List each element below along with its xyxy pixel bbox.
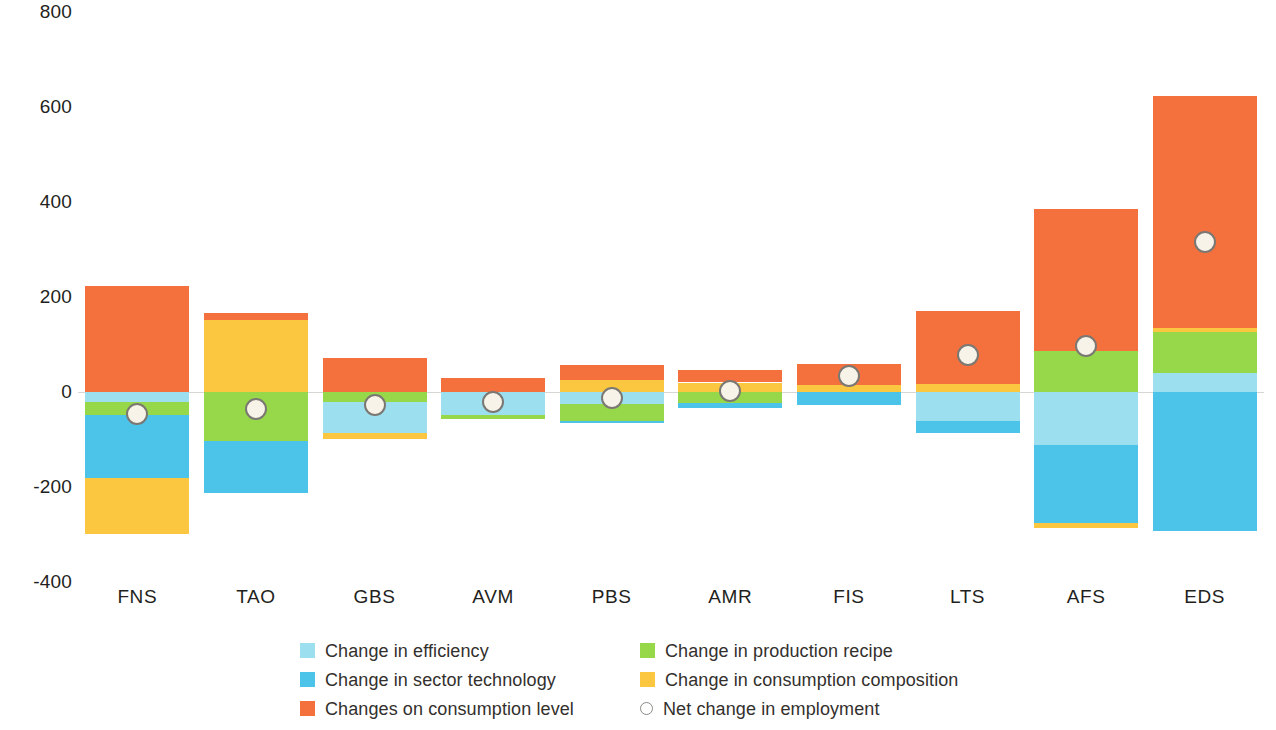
legend-label: Change in production recipe: [665, 641, 893, 661]
net-change-marker: [364, 394, 386, 416]
x-axis-tick-label: GBS: [354, 586, 396, 608]
bar-segment: [85, 286, 189, 392]
legend-color-swatch-icon: [300, 701, 315, 716]
x-axis-tick-label: PBS: [592, 586, 632, 608]
y-axis-tick-label: -200: [10, 477, 72, 496]
legend-item[interactable]: Change in consumption composition: [640, 665, 958, 694]
x-axis-tick-label: FNS: [117, 586, 157, 608]
bar-segment: [441, 378, 545, 392]
bar-segment: [204, 320, 308, 392]
legend-color-swatch-icon: [640, 672, 655, 687]
bar-group[interactable]: [560, 12, 664, 582]
net-change-marker: [1075, 335, 1097, 357]
bar-segment: [204, 313, 308, 320]
x-axis-tick-label: LTS: [950, 586, 985, 608]
bar-segment: [1034, 523, 1138, 528]
bar-group[interactable]: [85, 12, 189, 582]
y-axis-tick-label: 0: [10, 382, 72, 401]
legend-item[interactable]: Change in sector technology: [300, 665, 556, 694]
net-change-marker: [719, 380, 741, 402]
legend-color-swatch-icon: [300, 672, 315, 687]
legend-label: Change in consumption composition: [665, 670, 958, 690]
y-axis-tick-label: 600: [10, 97, 72, 116]
x-axis: FNSTAOGBSAVMPBSAMRFISLTSAFSEDS: [78, 586, 1264, 616]
bar-group[interactable]: [678, 12, 782, 582]
bar-group[interactable]: [441, 12, 545, 582]
y-axis-tick-label: 400: [10, 192, 72, 211]
legend-color-swatch-icon: [300, 643, 315, 658]
net-change-marker: [838, 365, 860, 387]
chart-legend: Change in efficiencyChange in production…: [300, 636, 1000, 728]
bar-group[interactable]: [1034, 12, 1138, 582]
bar-segment: [1034, 209, 1138, 351]
bar-group[interactable]: [797, 12, 901, 582]
chart-container: 8006004002000-200-400 FNSTAOGBSAVMPBSAMR…: [0, 0, 1276, 730]
bar-segment: [797, 392, 901, 405]
bar-segment: [678, 403, 782, 407]
y-axis-tick-label: 200: [10, 287, 72, 306]
legend-color-swatch-icon: [640, 643, 655, 658]
bar-segment: [560, 421, 664, 423]
net-change-marker: [482, 391, 504, 413]
bar-segment: [916, 421, 1020, 433]
legend-circle-marker-icon: [640, 702, 653, 715]
legend-item[interactable]: Change in efficiency: [300, 636, 489, 665]
y-axis: 8006004002000-200-400: [0, 12, 72, 582]
bar-segment: [1153, 332, 1257, 372]
bar-segment: [560, 365, 664, 379]
legend-label: Net change in employment: [663, 699, 880, 719]
bar-segment: [323, 433, 427, 439]
x-axis-tick-label: TAO: [236, 586, 275, 608]
bar-segment: [441, 415, 545, 419]
net-change-marker: [245, 398, 267, 420]
bar-segment: [1034, 392, 1138, 445]
bar-group[interactable]: [1153, 12, 1257, 582]
bar-segment: [916, 392, 1020, 421]
y-axis-tick-label: -400: [10, 572, 72, 591]
bar-segment: [85, 392, 189, 402]
x-axis-tick-label: AFS: [1067, 586, 1106, 608]
bars-layer: [78, 12, 1264, 582]
legend-row: Change in sector technologyChange in con…: [300, 665, 1000, 694]
legend-row: Change in efficiencyChange in production…: [300, 636, 1000, 665]
net-change-marker: [126, 403, 148, 425]
x-axis-tick-label: AMR: [708, 586, 752, 608]
bar-segment: [1153, 328, 1257, 332]
bar-segment: [1034, 445, 1138, 523]
bar-segment: [1153, 392, 1257, 531]
legend-item[interactable]: Net change in employment: [640, 694, 880, 723]
bar-segment: [85, 478, 189, 534]
legend-label: Change in sector technology: [325, 670, 556, 690]
x-axis-tick-label: EDS: [1184, 586, 1225, 608]
legend-item[interactable]: Change in production recipe: [640, 636, 893, 665]
bar-segment: [1153, 373, 1257, 392]
bar-group[interactable]: [204, 12, 308, 582]
bar-segment: [916, 384, 1020, 392]
net-change-marker: [601, 387, 623, 409]
legend-label: Change in efficiency: [325, 641, 489, 661]
x-axis-tick-label: AVM: [472, 586, 514, 608]
bar-segment: [204, 441, 308, 493]
legend-row: Changes on consumption levelNet change i…: [300, 694, 1000, 723]
net-change-marker: [1194, 231, 1216, 253]
legend-label: Changes on consumption level: [325, 699, 574, 719]
net-change-marker: [957, 344, 979, 366]
bar-segment: [1153, 96, 1257, 328]
x-axis-tick-label: FIS: [833, 586, 864, 608]
bar-group[interactable]: [323, 12, 427, 582]
bar-group[interactable]: [916, 12, 1020, 582]
plot-area: [78, 12, 1264, 582]
bar-segment: [323, 358, 427, 392]
y-axis-tick-label: 800: [10, 2, 72, 21]
legend-item[interactable]: Changes on consumption level: [300, 694, 574, 723]
